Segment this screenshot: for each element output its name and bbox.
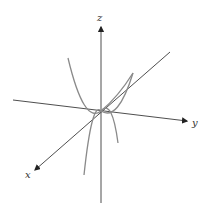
- upward-parabola-curve: [68, 58, 133, 113]
- x-axis: [35, 52, 170, 170]
- z-axis-label: z: [96, 12, 103, 23]
- axes-diagram: z y x: [0, 0, 211, 212]
- x-axis-label: x: [25, 169, 31, 180]
- y-axis-label: y: [191, 117, 198, 128]
